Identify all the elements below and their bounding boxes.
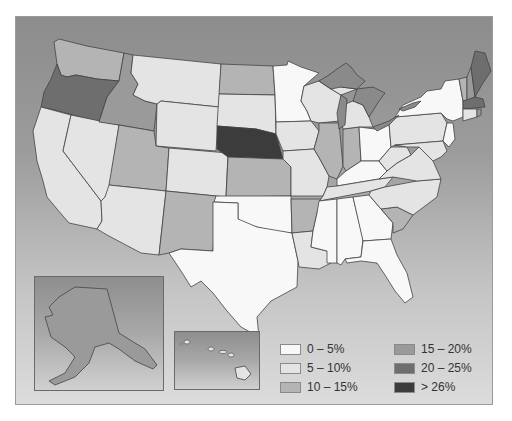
- legend-swatch: [394, 363, 415, 374]
- state-kansas: [226, 157, 291, 197]
- state-wyoming: [156, 101, 219, 151]
- legend-swatch: [280, 382, 301, 393]
- alaska-shape: [35, 277, 163, 390]
- state-rhode-island: [477, 109, 481, 117]
- legend-item: > 26%: [394, 379, 455, 395]
- state-north-dakota: [219, 64, 275, 95]
- legend-label: 0 – 5%: [307, 342, 344, 356]
- legend-swatch: [394, 382, 415, 393]
- state-montana: [131, 55, 221, 107]
- legend-swatch: [394, 344, 415, 355]
- legend: 0 – 5% 5 – 10% 10 – 15% 15 – 20% 20 – 25…: [280, 341, 493, 401]
- state-arizona: [97, 185, 166, 255]
- hawaii-shape: [175, 332, 259, 389]
- legend-label: > 26%: [421, 380, 455, 394]
- legend-item: 15 – 20%: [394, 341, 472, 357]
- alaska-inset: [34, 276, 164, 391]
- legend-label: 5 – 10%: [307, 361, 351, 375]
- state-new-mexico: [159, 191, 216, 255]
- legend-label: 10 – 15%: [307, 380, 358, 394]
- legend-label: 15 – 20%: [421, 342, 472, 356]
- map-frame: 0 – 5% 5 – 10% 10 – 15% 15 – 20% 20 – 25…: [15, 16, 493, 405]
- state-maine: [471, 51, 491, 97]
- state-connecticut: [463, 109, 477, 121]
- legend-swatch: [280, 344, 301, 355]
- legend-item: 20 – 25%: [394, 360, 472, 376]
- legend-item: 0 – 5%: [280, 341, 344, 357]
- legend-item: 10 – 15%: [280, 379, 358, 395]
- hawaii-inset: [174, 331, 260, 390]
- state-colorado: [166, 148, 228, 197]
- state-iowa: [276, 121, 319, 151]
- legend-item: 5 – 10%: [280, 360, 351, 376]
- legend-swatch: [280, 363, 301, 374]
- legend-label: 20 – 25%: [421, 361, 472, 375]
- state-washington: [54, 39, 124, 81]
- lake-superior: [319, 63, 365, 89]
